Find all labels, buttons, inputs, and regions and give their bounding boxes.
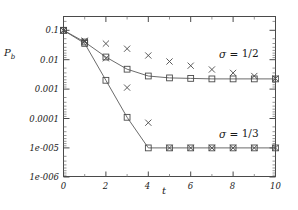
x-tick-label-1: 2 xyxy=(99,182,112,191)
x-axis-minor-ticks xyxy=(85,17,255,178)
x-axis-ticks xyxy=(64,17,276,178)
annotation-sigma-third: σ = 1/3 xyxy=(219,129,259,140)
y-axis-label-base: P xyxy=(4,47,11,58)
equals-sign-half: = xyxy=(230,48,239,60)
y-tick-label-1: 0.01 xyxy=(26,56,59,65)
x-tick-label-3: 6 xyxy=(184,182,197,191)
x-tick-label-0: 0 xyxy=(57,182,70,191)
fraction-half: 1/2 xyxy=(242,48,259,59)
y-axis-minor-ticks xyxy=(64,21,276,175)
y-tick-label-4: 1e-005 xyxy=(19,144,59,153)
x-tick-label-2: 4 xyxy=(141,182,154,191)
y-axis-label-subscript: b xyxy=(11,53,15,61)
y-tick-label-0: 0.1 xyxy=(26,26,59,35)
y-tick-label-2: 0.001 xyxy=(26,85,59,94)
y-axis-label: Pb xyxy=(4,48,15,61)
plot-frame xyxy=(64,17,276,177)
fraction-numerator-third: 1 xyxy=(242,127,249,139)
figure-container: 0.1 0.01 0.001 0.0001 1e-005 1e-006 0 2 … xyxy=(0,0,298,210)
x-tick-label-5: 10 xyxy=(267,182,284,191)
fraction-denominator-third: 3 xyxy=(252,127,259,139)
sigma-symbol-half: σ xyxy=(219,48,226,60)
fraction-denominator-half: 2 xyxy=(252,47,259,59)
equals-sign-third: = xyxy=(230,128,239,140)
fraction-third: 1/3 xyxy=(242,128,259,139)
sigma-symbol-third: σ xyxy=(219,128,226,140)
x-tick-label-4: 8 xyxy=(226,182,239,191)
x-axis-label-text: t xyxy=(162,185,166,196)
y-tick-label-5: 1e-006 xyxy=(19,173,59,182)
y-tick-label-3: 0.0001 xyxy=(22,115,59,124)
fraction-numerator-half: 1 xyxy=(242,47,249,59)
annotation-sigma-half: σ = 1/2 xyxy=(219,49,259,60)
x-axis-label: t xyxy=(162,186,166,196)
